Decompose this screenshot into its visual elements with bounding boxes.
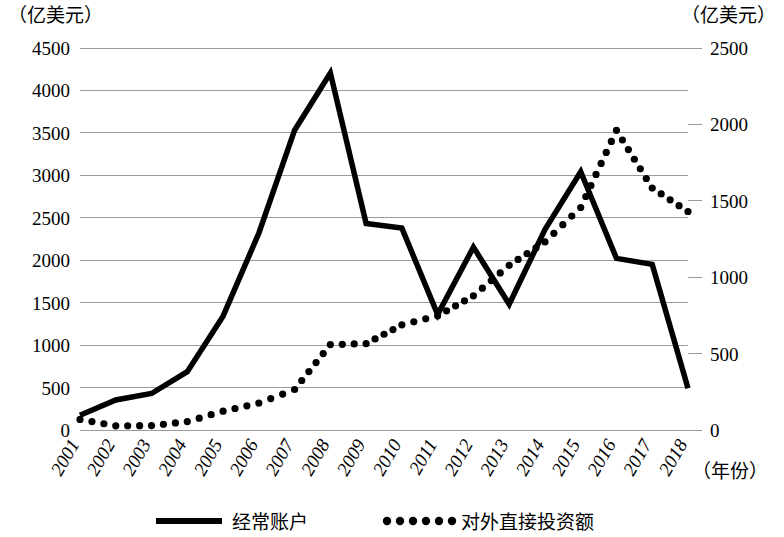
series-dot xyxy=(603,149,610,156)
series-dot xyxy=(559,221,566,228)
series-dot xyxy=(279,390,286,397)
series-dot xyxy=(76,416,83,423)
left-axis-tick-label: 1500 xyxy=(32,293,70,314)
right-axis-unit-label: （亿美元） xyxy=(681,5,776,26)
series-dot xyxy=(443,307,450,314)
legend-dot xyxy=(435,517,443,525)
series-dot xyxy=(461,297,468,304)
series-dot xyxy=(410,318,417,325)
legend-marker-dotted-line xyxy=(383,517,456,525)
x-axis-tick-labels: 2001200220032004200520062007200820092010… xyxy=(46,434,691,479)
series-dot xyxy=(506,262,513,269)
x-axis-year-label: 2009 xyxy=(332,435,369,479)
x-axis-year-label: 2017 xyxy=(619,434,657,479)
series-dot xyxy=(631,156,638,163)
series-dot xyxy=(470,292,477,299)
series-dot xyxy=(219,408,226,415)
series-dot xyxy=(172,419,179,426)
x-axis-year-label: 2007 xyxy=(261,434,299,479)
series-dot xyxy=(675,202,682,209)
series-dot xyxy=(523,250,530,257)
series-dot xyxy=(568,213,575,220)
series-dot xyxy=(184,418,191,425)
series-dot xyxy=(231,405,238,412)
x-axis-year-label: 2014 xyxy=(511,435,548,479)
series-dot xyxy=(515,256,522,263)
x-axis-year-label: 2013 xyxy=(475,436,512,479)
series-dot xyxy=(643,175,650,182)
x-axis-year-label: 2018 xyxy=(654,435,691,479)
series-dot xyxy=(598,160,605,167)
gridlines xyxy=(80,48,688,430)
series-dot xyxy=(351,340,358,347)
legend-dot xyxy=(396,517,404,525)
right-axis-tick-marks xyxy=(688,48,702,430)
legend: 经常账户 对外直接投资额 xyxy=(156,512,594,533)
series-dot xyxy=(371,335,378,342)
legend-dot xyxy=(422,517,430,525)
right-axis-tick-label: 1500 xyxy=(710,191,748,212)
series-dot xyxy=(398,321,405,328)
series-dot xyxy=(320,350,327,357)
x-axis-year-label: 2003 xyxy=(118,436,155,479)
series-dot xyxy=(667,196,674,203)
series-dot xyxy=(312,359,319,366)
right-axis-tick-label: 2000 xyxy=(710,114,748,135)
series-dot xyxy=(88,418,95,425)
left-axis-tick-label: 4000 xyxy=(32,80,70,101)
left-axis-tick-label: 4500 xyxy=(32,38,70,59)
x-axis-year-label: 2010 xyxy=(368,435,405,479)
series-dot xyxy=(196,415,203,422)
chart-container: 050010001500200025003000350040004500 050… xyxy=(0,0,784,537)
legend-dot xyxy=(383,517,391,525)
right-axis-tick-label: 1000 xyxy=(710,267,748,288)
right-axis-tick-label: 500 xyxy=(710,344,739,365)
left-axis-tick-label: 2500 xyxy=(32,208,70,229)
line-chart: 050010001500200025003000350040004500 050… xyxy=(0,0,784,537)
x-axis-year-label: 2015 xyxy=(547,436,584,479)
series-dot xyxy=(550,230,557,237)
series-dot xyxy=(608,138,615,145)
series-dot xyxy=(684,208,691,215)
x-axis-year-label: 2006 xyxy=(225,435,262,479)
left-axis-tick-labels: 050010001500200025003000350040004500 xyxy=(32,38,70,441)
x-axis-year-label: 2001 xyxy=(46,436,83,479)
series-dot xyxy=(637,165,644,172)
series-dot xyxy=(582,193,589,200)
series-dot xyxy=(649,185,656,192)
series-dot xyxy=(305,368,312,375)
series-dot xyxy=(148,422,155,429)
series-dot xyxy=(422,315,429,322)
x-axis-year-label: 2011 xyxy=(405,436,441,478)
x-axis-year-label: 2016 xyxy=(583,435,620,479)
series-dot xyxy=(658,190,665,197)
series-dot xyxy=(100,420,107,427)
series-dot xyxy=(291,386,298,393)
series-dot xyxy=(160,421,167,428)
left-axis-tick-label: 3500 xyxy=(32,123,70,144)
series-dot xyxy=(619,136,626,143)
series-dot xyxy=(613,127,620,134)
series-dot xyxy=(267,395,274,402)
series-dot xyxy=(208,411,215,418)
series-layer xyxy=(76,73,691,430)
x-axis-year-label: 2005 xyxy=(189,436,226,479)
right-axis-tick-label: 2500 xyxy=(710,38,748,59)
series-dot xyxy=(327,341,334,348)
left-axis-tick-label: 2000 xyxy=(32,250,70,271)
series-dot xyxy=(452,302,459,309)
x-axis-name-label: （年份） xyxy=(692,461,768,482)
series-line-current-account xyxy=(80,73,688,415)
legend-label-outward-fdi: 对外直接投资额 xyxy=(461,512,594,533)
series-dot xyxy=(389,326,396,333)
series-dot xyxy=(497,269,504,276)
left-axis-tick-label: 3000 xyxy=(32,165,70,186)
series-dot xyxy=(434,312,441,319)
series-dot xyxy=(136,422,143,429)
x-axis-year-label: 2002 xyxy=(82,435,119,479)
series-dot xyxy=(592,171,599,178)
legend-label-current-account: 经常账户 xyxy=(232,512,308,533)
series-dot xyxy=(577,204,584,211)
series-dot xyxy=(363,340,370,347)
left-axis-unit-label: （亿美元） xyxy=(8,5,103,26)
